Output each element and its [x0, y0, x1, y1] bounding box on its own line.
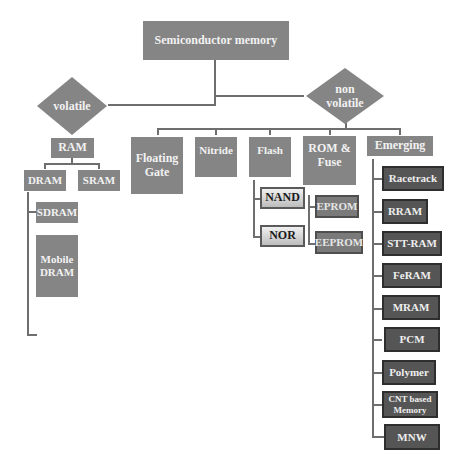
connector: [372, 339, 382, 341]
nitride-node: Nitride: [195, 137, 237, 177]
sdram-node: SDRAM: [36, 202, 78, 223]
pcm-label: PCM: [399, 333, 424, 346]
rom-fuse-node: ROM & Fuse: [303, 136, 356, 185]
cnt-memory-label: CNT based Memory: [384, 394, 436, 415]
connector: [253, 180, 255, 238]
connector: [372, 308, 382, 310]
eprom-node: EPROM: [315, 195, 359, 218]
connector: [157, 128, 401, 130]
connector: [157, 128, 159, 135]
connector: [214, 60, 216, 105]
eprom-label: EPROM: [317, 200, 358, 213]
polymer-label: Polymer: [389, 366, 429, 379]
connector: [372, 211, 382, 213]
connector: [44, 163, 100, 165]
rram-label: RRAM: [388, 205, 422, 218]
nor-label: NOR: [269, 229, 296, 243]
emerging-node: Emerging: [367, 136, 433, 156]
ram-node: RAM: [51, 138, 94, 158]
dram-node: DRAM: [24, 170, 66, 191]
connector: [372, 436, 384, 438]
stt-ram-label: STT-RAM: [387, 237, 437, 250]
dram-label: DRAM: [28, 174, 62, 187]
sram-node: SRAM: [78, 170, 120, 191]
flash-label: Flash: [257, 144, 283, 157]
eeprom-label: EEPROM: [315, 236, 363, 249]
nitride-label: Nitride: [199, 144, 233, 157]
connector: [214, 95, 304, 97]
root-node: Semiconductor memory: [143, 21, 289, 60]
sram-label: SRAM: [83, 174, 115, 187]
floating-gate-node: Floating Gate: [131, 137, 183, 194]
nor-node: NOR: [260, 225, 305, 247]
emerging-label: Emerging: [375, 139, 426, 153]
emerging-item-cnt-memory: CNT based Memory: [382, 391, 438, 418]
emerging-item-rram: RRAM: [382, 199, 428, 224]
connector: [27, 334, 37, 336]
mobile-dram-label: Mobile DRAM: [36, 253, 78, 278]
connector: [269, 128, 271, 135]
connector: [372, 372, 382, 374]
connector: [308, 195, 310, 245]
nand-label: NAND: [265, 191, 300, 205]
mnw-label: MNW: [397, 431, 426, 444]
mobile-dram-node: Mobile DRAM: [36, 235, 78, 297]
connector: [27, 192, 29, 336]
connector: [372, 159, 374, 438]
rom-fuse-label: ROM & Fuse: [303, 142, 356, 170]
connector: [44, 163, 46, 169]
non-volatile-label: non volatile: [306, 68, 384, 124]
volatile-label: volatile: [37, 77, 107, 135]
emerging-item-stt-ram: STT-RAM: [382, 231, 442, 256]
emerging-item-mram: MRAM: [382, 295, 440, 320]
eeprom-node: EEPROM: [315, 231, 363, 254]
emerging-item-polymer: Polymer: [382, 360, 436, 385]
emerging-item-pcm: PCM: [384, 327, 440, 352]
ram-label: RAM: [58, 141, 87, 155]
emerging-item-feram: FeRAM: [382, 263, 442, 288]
connector: [372, 178, 382, 180]
racetrack-label: Racetrack: [389, 172, 437, 185]
sdram-label: SDRAM: [37, 206, 77, 219]
connector: [215, 128, 217, 135]
connector: [372, 275, 382, 277]
non-volatile-diamond: non volatile: [306, 68, 384, 124]
connector: [372, 243, 382, 245]
floating-gate-label: Floating Gate: [131, 152, 183, 180]
volatile-diamond: volatile: [37, 77, 107, 135]
connector: [98, 163, 100, 169]
mram-label: MRAM: [393, 301, 430, 314]
feram-label: FeRAM: [393, 269, 431, 282]
emerging-item-racetrack: Racetrack: [382, 166, 444, 191]
connector: [399, 128, 401, 135]
connector: [108, 104, 216, 106]
root-label: Semiconductor memory: [155, 34, 278, 48]
nand-node: NAND: [260, 187, 305, 209]
flash-node: Flash: [249, 137, 291, 177]
emerging-item-mnw: MNW: [384, 424, 440, 450]
connector: [329, 128, 331, 135]
connector: [372, 404, 382, 406]
